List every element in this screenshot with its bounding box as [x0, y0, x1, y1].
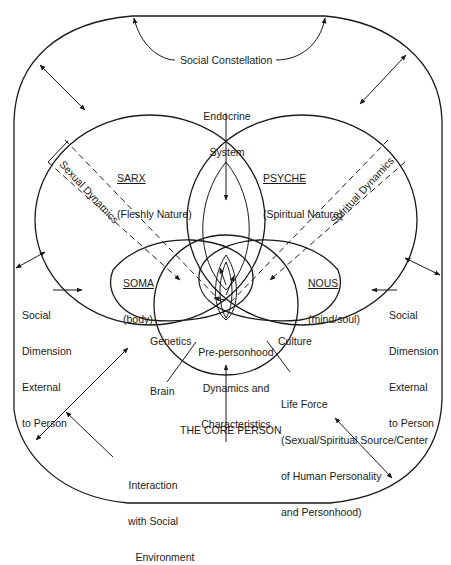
- core-person-label: THE CORE PERSON: [180, 424, 282, 436]
- social-dim-left-line1: Social: [22, 309, 72, 321]
- social-dim-right-line2: Dimension: [389, 345, 439, 357]
- life-force-line4: and Personhood): [281, 506, 428, 518]
- social-dim-right-line1: Social: [389, 309, 439, 321]
- life-force-line1: Life Force: [281, 398, 428, 410]
- nous-subtitle: (mind/soul): [308, 313, 360, 325]
- endocrine-system-label: Endocrine System: [197, 86, 257, 170]
- social-dim-left-line2: Dimension: [22, 345, 72, 357]
- endocrine-line2: System: [197, 146, 257, 158]
- life-force-line3: of Human Personality: [281, 470, 428, 482]
- interaction-line2: with Social: [108, 515, 198, 527]
- social-constellation-label: Social Constellation: [180, 54, 272, 66]
- social-constellation-arc-left: [134, 18, 175, 60]
- soma-title: SOMA: [123, 277, 154, 289]
- social-constellation-arc-right: [276, 18, 325, 60]
- endocrine-line1: Endocrine: [197, 110, 257, 122]
- interaction-label: Interaction with Social Environment: [108, 455, 198, 565]
- social-dimension-left-label: Social Dimension External to Person: [22, 285, 72, 441]
- prepersonhood-line2: Dynamics and: [196, 382, 276, 394]
- interaction-line1: Interaction: [108, 479, 198, 491]
- culture-label: Culture: [278, 335, 312, 347]
- life-force-label: Life Force (Sexual/Spiritual Source/Cent…: [281, 374, 428, 530]
- social-dim-left-line4: to Person: [22, 417, 72, 429]
- soma-label: SOMA (body): [123, 253, 154, 337]
- genetics-label: Genetics: [150, 335, 191, 347]
- brain-label: Brain: [150, 385, 175, 397]
- soma-subtitle: (body): [123, 313, 154, 325]
- social-dim-left-line3: External: [22, 381, 72, 393]
- life-force-line2: (Sexual/Spiritual Source/Center: [281, 434, 428, 446]
- interaction-line3: Environment: [108, 551, 198, 563]
- sarx-label: SARX (Fleshly Nature): [117, 148, 192, 232]
- prepersonhood-line1: Pre-personhood: [196, 346, 276, 358]
- psyche-title: PSYCHE: [263, 172, 342, 184]
- sarx-subtitle: (Fleshly Nature): [117, 208, 192, 220]
- nous-label: NOUS (mind/soul): [308, 253, 360, 337]
- nous-title: NOUS: [308, 277, 360, 289]
- sarx-title: SARX: [117, 172, 192, 184]
